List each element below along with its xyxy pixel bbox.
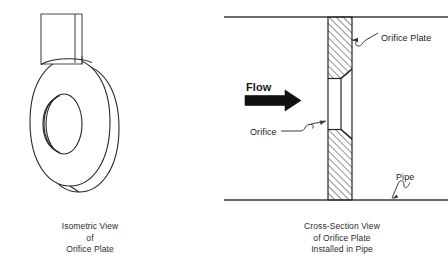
plate-upper-hatch-fill [328,17,352,79]
isometric-caption-line-3: Orifice Plate [20,244,160,256]
cross-section-caption-line-3: Installed in Pipe [272,244,412,256]
pipe-label: Pipe [396,172,414,182]
flow-label: Flow [246,81,271,93]
leader-orifice-arrowhead [320,121,326,125]
orifice-throat-void [328,79,341,130]
orifice-label: Orifice [250,127,277,137]
cross-section-caption-line-1: Cross-Section View [272,221,412,233]
figure-root: Flow Orifice Plate Orifice Pipe Isometri… [0,0,448,272]
isometric-view-group [30,14,119,192]
leader-orifice-plate [352,33,378,46]
orifice-bore [328,69,352,139]
isometric-caption-line-2: of [20,233,160,245]
flow-arrow-shape [245,90,301,111]
leader-orifice-plate-arrowhead [352,38,358,42]
cross-section-caption-line-2: of Orifice Plate [272,233,412,245]
cross-section-view-caption: Cross-Section View of Orifice Plate Inst… [272,221,412,256]
isometric-caption-line-1: Isometric View [20,221,160,233]
leader-pipe [392,181,410,199]
flow-arrow [245,90,301,111]
bore-hole [43,94,82,154]
plate-lower-hatch-fill [328,130,352,201]
leader-orifice [281,121,326,131]
isometric-view-caption: Isometric View of Orifice Plate [20,221,160,256]
bore-front-edge [46,94,82,154]
handle-tab-face [41,14,82,64]
handle-tab [41,14,82,64]
orifice-plate-label: Orifice Plate [381,33,431,43]
